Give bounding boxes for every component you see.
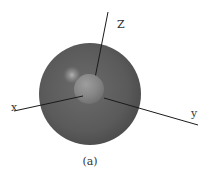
y-axis-label: y — [190, 107, 198, 120]
inner-sphere — [74, 74, 104, 104]
figure-caption: (a) — [82, 155, 97, 168]
x-axis-label: x — [11, 101, 18, 114]
z-axis-label: Z — [117, 18, 125, 31]
sphere-diagram: Z x y (a) — [0, 0, 213, 175]
